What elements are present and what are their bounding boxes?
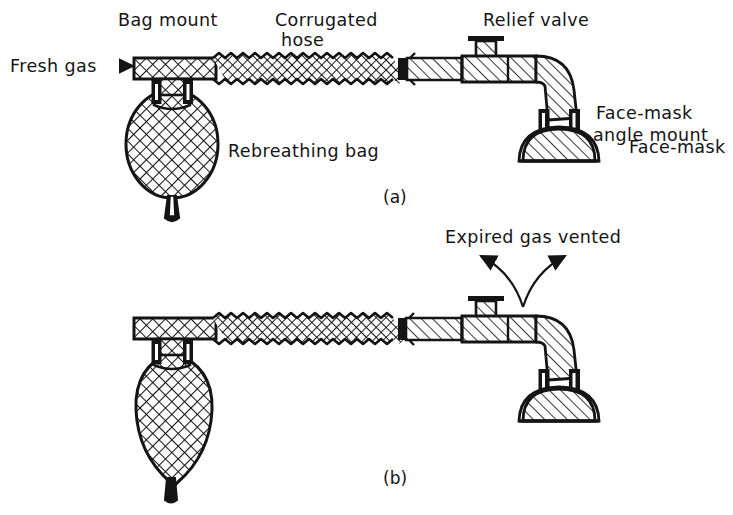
hose-connector-b — [406, 313, 462, 345]
label-relief-valve: Relief valve — [483, 10, 589, 30]
label-corrugated-hose-line1: Corrugated — [275, 10, 378, 30]
hose-connector-a — [407, 53, 462, 85]
label-angle-mount-line1: Face-mask — [596, 103, 693, 123]
label-fresh-gas: Fresh gas — [10, 56, 97, 76]
panel-label-b: (b) — [383, 468, 407, 488]
breathing-system-diagram: Fresh gas Bag mount Corrugated hose Reli… — [0, 0, 733, 515]
label-corrugated-hose-line2: hose — [281, 30, 324, 50]
label-face-mask: Face-mask — [629, 137, 726, 157]
label-expired-gas-vented: Expired gas vented — [445, 227, 621, 247]
label-rebreathing-bag: Rebreathing bag — [228, 141, 379, 161]
figure-page: Fresh gas Bag mount Corrugated hose Reli… — [0, 0, 733, 515]
label-bag-mount: Bag mount — [118, 10, 218, 30]
panel-label-a: (a) — [383, 187, 407, 207]
